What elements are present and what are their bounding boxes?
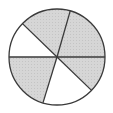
fraction-circle-diagram xyxy=(0,0,113,113)
pie-circle xyxy=(0,0,113,113)
